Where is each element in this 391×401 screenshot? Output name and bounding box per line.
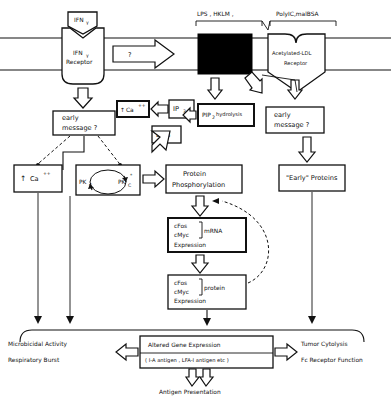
outcome-tumor-cytolysis: Tumor Cytolysis (300, 341, 347, 348)
ip3-to-calcium-arrow (151, 102, 168, 116)
protein-cmyc: cMyc (174, 289, 189, 296)
mrna-cfos: cFos (174, 223, 187, 229)
left-output-lines (34, 193, 74, 324)
calcium-box-superscript: ++ (43, 171, 51, 176)
pkc-inactive-sub: C (89, 183, 92, 188)
early-message-left-line2: message ? (62, 124, 98, 132)
polyic-malbsa-label: PolyIC,malBSA (276, 11, 319, 18)
ifn-receptor-sub: γ (86, 53, 89, 58)
ifn-gamma-receptor: IFN γ Receptor (62, 28, 104, 84)
calcium-up-arrow: ↑ (120, 107, 125, 113)
lps-hklm-bracket: LPS , HKLM , (196, 11, 268, 30)
pip2-hydrolysis-box: PIP 2 hydrolysis (198, 104, 254, 126)
early-message-right-line1: early (274, 111, 291, 119)
pip2-hydrolysis-sub: 2 (212, 115, 215, 120)
mrna-expression: Expression (174, 242, 206, 249)
calcium-small-box: ↑ Ca ++ (117, 101, 149, 117)
outcome-respiratory-burst: Respiratory Burst (8, 357, 60, 364)
right-output-line (308, 192, 316, 324)
ip3-label: IP (173, 105, 179, 113)
mrna-to-protein-arrow (192, 255, 208, 273)
polyic-malbsa-bracket: PolyIC,malBSA (268, 11, 336, 30)
protein-phosphorylation-box: Protein Phosphorylation (166, 165, 242, 193)
mrna-bracket-label: mRNA (204, 228, 222, 234)
pkc-to-phosphorylation-arrow (143, 171, 164, 187)
pip2-hydrolysis-rest: hydrolysis (216, 111, 242, 118)
pkc-cycle-box: PK C PK C * (76, 165, 140, 195)
pkc-active-sub: C (128, 183, 131, 188)
outcome-fc-receptor: Fc Receptor Function (301, 357, 363, 364)
phosphorylation-to-mrna-arrow (192, 196, 208, 216)
ifn-ligand-label: IFN (74, 17, 84, 23)
altered-gene-label: Altered Gene Expression (148, 342, 221, 349)
question-mark-label: ? (128, 51, 132, 59)
calcium-box-label: Ca (30, 175, 39, 183)
calcium-superscript: ++ (138, 103, 146, 108)
protein-cfos: cFos (174, 280, 187, 286)
outcome-antigen-presentation: Antigen Presentation (159, 389, 221, 396)
calcium-label: Ca (126, 107, 134, 113)
protein-phos-line1: Protein (183, 170, 206, 178)
lps-hklm-label: LPS , HKLM , (197, 11, 234, 17)
black-receptor-box (198, 34, 252, 74)
ldl-receptor-label-1: Acetylated-LDL (272, 50, 311, 57)
plasma-membrane (0, 38, 391, 70)
early-message-right-line2: message ? (274, 121, 310, 129)
ifn-receptor-downstream-arrow (74, 88, 92, 108)
protein-expression-box: cFos cMyc protein Expression (168, 275, 246, 309)
pkc-active-label: PK (118, 179, 126, 185)
early-proteins-box: "Early" Proteins (279, 165, 345, 191)
altered-gene-left-arrow (116, 344, 138, 360)
pkc-inactive-label: PK (79, 179, 87, 185)
altered-gene-bottom-arrows (186, 369, 213, 386)
early-proteins-label: "Early" Proteins (286, 174, 338, 182)
pip2-hydrolysis-label: PIP (202, 112, 211, 118)
altered-gene-right-arrow (275, 344, 297, 360)
protein-to-altered-gene-line (203, 310, 211, 326)
altered-gene-expression-box: Altered Gene Expression ( I-A antigen , … (140, 336, 273, 368)
signal-transduction-diagram: IFN γ IFN γ Receptor ? LPS , HKLM , Poly… (0, 0, 391, 401)
ldl-receptor-label-2: Receptor (284, 60, 308, 67)
outcome-microbicidal: Microbicidal Activity (8, 341, 68, 348)
calcium-box: ↑ Ca ++ (14, 165, 62, 192)
protein-phos-line2: Phosphorylation (172, 181, 225, 189)
early-message-left-line1: early (62, 114, 79, 122)
feedback-arrowhead (212, 198, 219, 204)
early-message-right-box: early message ? (266, 107, 324, 133)
question-signal-arrow: ? (113, 40, 174, 68)
early-message-to-proteins-arrow (299, 137, 315, 162)
mrna-cmyc: cMyc (174, 232, 189, 239)
ifn-receptor-label-1: IFN (73, 50, 83, 56)
mrna-expression-box: cFos cMyc mRNA Expression (168, 218, 246, 252)
ifn-ligand-sub: γ (86, 20, 89, 25)
altered-gene-sublabel: ( I-A antigen , LFA-I antigen etc ) (145, 357, 229, 364)
protein-bracket-label: protein (204, 285, 225, 292)
calcium-box-arrow: ↑ (20, 174, 26, 183)
ifn-receptor-label-2: Receptor (66, 59, 93, 66)
protein-expression: Expression (174, 298, 206, 305)
early-message-left-box: early message ? (53, 111, 115, 135)
